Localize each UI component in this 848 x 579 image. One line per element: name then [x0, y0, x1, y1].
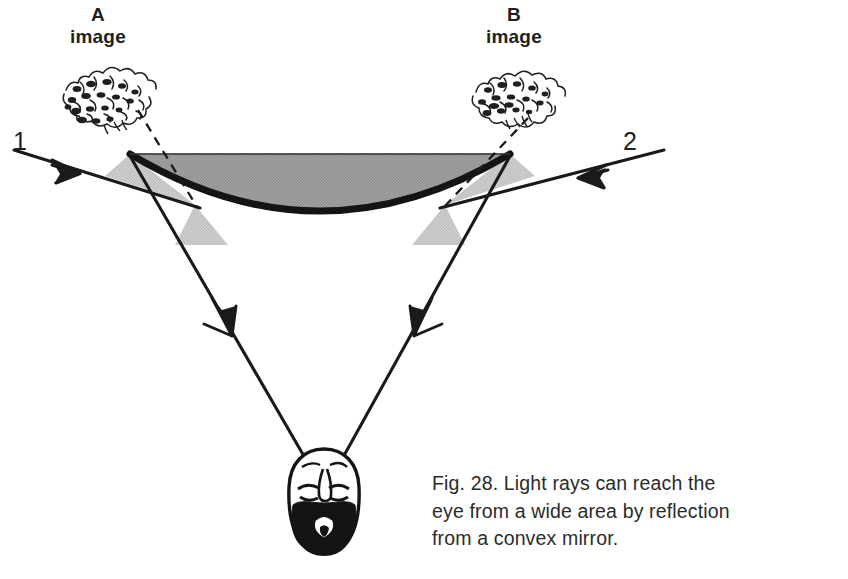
figure-container: A image B image 1 2 Fig. 28. Light rays …: [0, 0, 848, 579]
label-image-a-letter: A: [91, 4, 105, 25]
label-ray-2: 2: [623, 127, 637, 155]
caption-line-2: eye from a wide area by reflection: [432, 498, 824, 526]
caption-line-3: from a convex mirror.: [432, 525, 824, 553]
label-image-b-word: image: [486, 26, 542, 47]
caption-line-1: Fig. 28. Light rays can reach the: [432, 470, 824, 498]
angle-wedge-right-lower: [412, 205, 465, 245]
virtual-image-a-foliage[interactable]: [63, 67, 156, 134]
virtual-image-b-foliage[interactable]: [472, 71, 565, 129]
angle-wedge-left-lower: [175, 205, 228, 245]
figure-caption: Fig. 28. Light rays can reach the eye fr…: [432, 470, 824, 553]
label-ray-1: 1: [13, 127, 27, 155]
label-image-b-letter: B: [507, 4, 521, 25]
observer-head[interactable]: [289, 449, 359, 555]
label-image-a-word: image: [70, 26, 126, 47]
